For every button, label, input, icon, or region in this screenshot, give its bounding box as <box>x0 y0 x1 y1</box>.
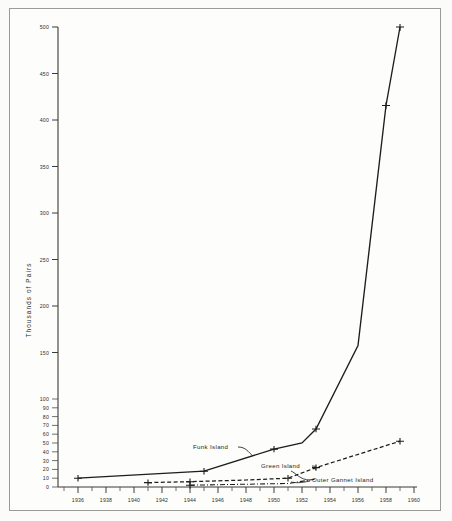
y-axis-ticks <box>52 27 58 487</box>
annotation-funk-island-label: Funk Island <box>193 443 228 450</box>
x-label-1954: 1954 <box>324 497 336 503</box>
y-label-20: 20 <box>43 466 49 472</box>
x-label-1956: 1956 <box>352 497 364 503</box>
y-label-40: 40 <box>43 449 49 455</box>
annotation-funk-island: Funk Island <box>193 443 253 456</box>
y-label-400: 400 <box>40 117 49 123</box>
x-label-1948: 1948 <box>240 497 252 503</box>
x-label-1946: 1946 <box>212 497 224 503</box>
x-label-1940: 1940 <box>128 497 140 503</box>
y-label-200: 200 <box>40 303 49 309</box>
series-green-island-marker-1941 <box>144 479 152 485</box>
x-label-1958: 1958 <box>380 497 392 503</box>
x-label-1936: 1936 <box>72 497 84 503</box>
y-label-80: 80 <box>43 414 49 420</box>
y-label-10: 10 <box>43 475 49 481</box>
series-green-island-marker-1959 <box>396 438 404 444</box>
y-axis-tick-labels: 500 450 400 350 300 250 200 150 100 90 8… <box>40 24 49 490</box>
x-label-1938: 1938 <box>100 497 112 503</box>
x-label-1952: 1952 <box>296 497 308 503</box>
series-funk-island-marker-1958 <box>382 102 390 108</box>
y-label-0: 0 <box>46 484 49 490</box>
series-funk-island-marker-1950 <box>270 446 278 452</box>
y-label-60: 60 <box>43 431 49 437</box>
annotation-green-island: Green Island <box>261 462 316 470</box>
y-label-30: 30 <box>43 458 49 464</box>
y-label-70: 70 <box>43 422 49 428</box>
line-chart: 500 450 400 350 300 250 200 150 100 90 8… <box>0 0 452 521</box>
series-funk-island-line <box>78 27 400 478</box>
annotation-outer-gannet-island-label: Outer Gannet Island <box>312 476 374 483</box>
annotation-outer-gannet-island-leader <box>291 471 310 480</box>
y-label-500: 500 <box>40 24 49 30</box>
x-label-1944: 1944 <box>184 497 196 503</box>
y-label-450: 450 <box>40 71 49 77</box>
x-label-1942: 1942 <box>156 497 168 503</box>
annotation-green-island-label: Green Island <box>261 462 300 469</box>
series-green-island-marker-1944 <box>186 479 194 485</box>
series-funk-island-marker-1945 <box>200 468 208 474</box>
series-green-island-marker-1951 <box>284 475 292 481</box>
y-label-100: 100 <box>40 396 49 402</box>
y-axis-title: Thousands of Pairs <box>25 263 32 338</box>
annotation-funk-island-leader <box>238 447 253 456</box>
x-axis-ticks <box>64 487 414 493</box>
series-funk-island <box>74 24 404 481</box>
y-label-350: 350 <box>40 164 49 170</box>
y-label-300: 300 <box>40 210 49 216</box>
x-axis-tick-labels: 1936 1938 1940 1942 1944 1946 1948 1950 … <box>72 497 420 503</box>
series-funk-island-marker-1959 <box>396 24 404 31</box>
y-label-250: 250 <box>40 257 49 263</box>
chart-axes <box>58 27 417 487</box>
x-label-1960: 1960 <box>408 497 420 503</box>
y-label-50: 50 <box>43 440 49 446</box>
series-funk-island-marker-1936 <box>74 475 82 481</box>
figure-page: 500 450 400 350 300 250 200 150 100 90 8… <box>0 0 452 521</box>
x-label-1950: 1950 <box>268 497 280 503</box>
y-label-150: 150 <box>40 350 49 356</box>
y-label-90: 90 <box>43 405 49 411</box>
